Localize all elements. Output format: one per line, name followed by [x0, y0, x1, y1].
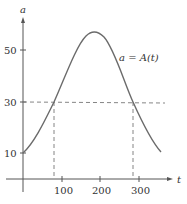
x-tick-label: 200 — [92, 185, 111, 196]
x-tick-label: 100 — [54, 185, 73, 196]
chart-container: a t 50 30 10 100 200 300 a = A(t) — [0, 0, 187, 204]
x-tick-label: 300 — [131, 185, 150, 196]
x-axis-arrow-icon — [167, 177, 173, 181]
y-tick-label: 50 — [4, 45, 17, 56]
line-chart: a t 50 30 10 100 200 300 a = A(t) — [0, 0, 187, 204]
curve-label: a = A(t) — [119, 52, 159, 63]
y-tick-label: 10 — [4, 148, 17, 159]
y-axis-arrow-icon — [21, 17, 25, 23]
curve-A-of-t — [23, 32, 161, 153]
threshold-dashed-line — [23, 102, 165, 103]
x-axis-label: t — [177, 174, 182, 185]
y-axis-label: a — [20, 4, 26, 15]
y-tick-label: 30 — [4, 97, 17, 108]
